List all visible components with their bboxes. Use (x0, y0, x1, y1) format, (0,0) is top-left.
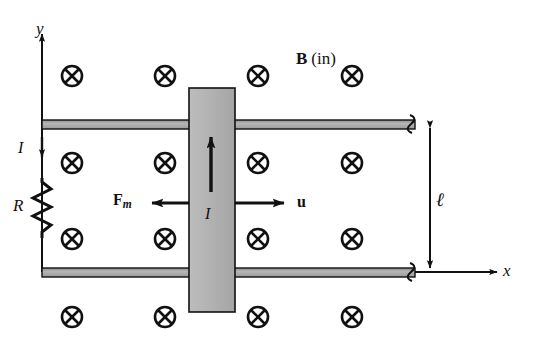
x-in-circle-icon (342, 307, 362, 327)
x-in-circle-icon (248, 307, 268, 327)
x-in-circle-icon (248, 66, 268, 86)
velocity-label: u (297, 194, 306, 210)
length-label: ℓ (436, 190, 444, 209)
x-in-circle-icon (342, 66, 362, 86)
physics-figure: y x I R I ℓ B(in) Fm u (0, 0, 534, 349)
figure-canvas (0, 0, 534, 349)
x-in-circle-icon (342, 229, 362, 249)
x-in-circle-icon (342, 153, 362, 173)
field-symbol: B (296, 49, 307, 68)
x-in-circle-icon (248, 229, 268, 249)
x-in-circle-icon (62, 153, 82, 173)
x-in-circle-icon (248, 153, 268, 173)
field-direction: (in) (311, 49, 336, 68)
x-axis-label: x (503, 262, 511, 279)
x-in-circle-icon (155, 307, 175, 327)
x-in-circle-icon (62, 66, 82, 86)
resistor-label: R (13, 197, 23, 214)
x-in-circle-icon (155, 153, 175, 173)
current-label-left: I (18, 140, 23, 156)
force-label: Fm (113, 192, 132, 211)
force-symbol: F (113, 191, 123, 208)
x-in-circle-icon (62, 229, 82, 249)
x-in-circle-icon (155, 66, 175, 86)
sliding-bar[interactable] (189, 88, 235, 312)
x-in-circle-icon (155, 229, 175, 249)
y-axis-label: y (36, 20, 44, 37)
x-in-circle-icon (62, 307, 82, 327)
current-label-bar: I (205, 206, 210, 222)
field-label: B(in) (296, 50, 336, 67)
force-subscript: m (123, 198, 132, 210)
